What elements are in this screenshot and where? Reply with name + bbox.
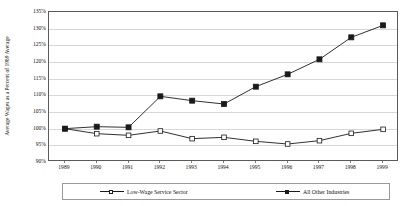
- y-tick-label: 110%: [18, 91, 46, 97]
- filled-square-marker-icon: [158, 94, 163, 99]
- open-square-marker-icon: [349, 131, 354, 136]
- y-axis-title-text: Average Wages as a Percent of 1989 Avera…: [4, 36, 10, 135]
- y-tick-label: 130%: [18, 25, 46, 31]
- filled-square-marker-icon: [381, 23, 386, 28]
- open-square-marker-icon: [317, 138, 322, 143]
- chart-legend: Low-Wage Service Sector All Other Indust…: [62, 183, 390, 200]
- filled-square-marker-icon: [94, 124, 99, 129]
- open-square-marker-icon: [381, 127, 386, 132]
- open-square-marker-icon: [126, 133, 131, 138]
- filled-square-marker-icon: [317, 57, 322, 62]
- filled-square-marker-icon: [126, 125, 131, 130]
- y-tick-label: 115%: [18, 75, 46, 81]
- filled-square-marker-icon: [222, 102, 227, 107]
- legend-label: Low-Wage Service Sector: [126, 189, 188, 195]
- series-2: [62, 23, 385, 131]
- y-tick-label: 90%: [18, 158, 46, 164]
- legend-label: All Other Industries: [302, 189, 349, 195]
- open-square-marker-icon: [94, 131, 99, 136]
- filled-square-marker-icon: [190, 98, 195, 103]
- y-tick-label: 125%: [18, 41, 46, 47]
- series-1: [63, 126, 386, 146]
- open-square-marker-icon: [254, 139, 259, 144]
- y-axis-tick-labels: 90%95%100%105%110%115%120%125%130%135%: [14, 0, 46, 206]
- filled-square-marker-icon: [349, 35, 354, 40]
- open-square-marker-icon: [158, 129, 163, 134]
- y-tick-label: 105%: [18, 108, 46, 114]
- open-square-marker-icon: [285, 142, 290, 147]
- y-tick-label: 120%: [18, 58, 46, 64]
- plot-series-layer: [49, 12, 399, 162]
- filled-square-marker-icon: [253, 84, 258, 89]
- series-line: [65, 25, 383, 128]
- filled-square-marker-icon: [276, 188, 300, 195]
- legend-entry-all-other-industries: All Other Industries: [276, 184, 349, 199]
- open-square-marker-icon: [100, 188, 124, 195]
- x-tick-label: 1999: [362, 163, 402, 171]
- plot-area: [48, 11, 398, 161]
- y-tick-label: 135%: [18, 8, 46, 14]
- open-square-marker-icon: [222, 135, 227, 140]
- legend-entry-low-wage-service-sector: Low-Wage Service Sector: [100, 184, 188, 199]
- y-tick-label: 100%: [18, 125, 46, 131]
- filled-square-marker-icon: [285, 72, 290, 77]
- open-square-marker-icon: [190, 136, 195, 141]
- y-tick-label: 95%: [18, 141, 46, 147]
- wage-index-line-chart: Average Wages as a Percent of 1989 Avera…: [0, 0, 412, 206]
- x-axis-tick-labels: 1989199019911992199319941995199619971998…: [48, 163, 398, 175]
- y-axis-title: Average Wages as a Percent of 1989 Avera…: [0, 0, 14, 172]
- filled-square-marker-icon: [62, 126, 67, 131]
